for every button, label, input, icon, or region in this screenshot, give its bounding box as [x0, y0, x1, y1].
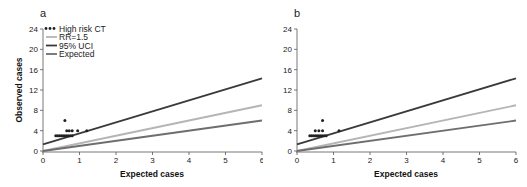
data-point	[337, 129, 340, 132]
data-point	[65, 129, 68, 132]
y-tick-label: 24	[283, 25, 292, 34]
data-point	[85, 129, 88, 132]
series-line	[43, 121, 262, 152]
y-tick-label: 20	[283, 45, 292, 54]
chart-a: a Observed cases Expected cases High ris…	[0, 0, 263, 187]
legend: High risk CT RR=1.5 95% UCI Expected	[45, 24, 106, 60]
y-tick-label: 12	[283, 86, 292, 95]
y-tick-label: 24	[29, 25, 38, 34]
legend-item-expected: Expected	[46, 49, 95, 59]
y-tick-label: 8	[34, 106, 39, 115]
x-tick-label: 5	[477, 156, 482, 165]
x-tick-label: 3	[150, 156, 155, 165]
x-tick-label: 0	[295, 156, 300, 165]
x-tick-label: 1	[77, 156, 82, 165]
series-line	[297, 121, 516, 152]
panel-letter-b: b	[294, 7, 300, 19]
y-tick-label: 20	[29, 45, 38, 54]
y-tick-label: 16	[29, 66, 38, 75]
y-axis-label: Observed cases	[14, 57, 24, 122]
x-tick-label: 5	[223, 156, 228, 165]
x-tick-label: 2	[368, 156, 373, 165]
y-tick-label: 4	[288, 127, 293, 136]
data-point	[76, 129, 79, 132]
legend-label: Expected	[59, 49, 95, 59]
x-tick-label: 1	[331, 156, 336, 165]
data-point	[71, 134, 74, 137]
data-point	[63, 119, 66, 122]
x-tick-label: 4	[441, 156, 446, 165]
panel-a: a Observed cases Expected cases High ris…	[0, 0, 263, 187]
x-tick-label: 2	[114, 156, 119, 165]
data-point	[325, 134, 328, 137]
data-point	[68, 129, 71, 132]
y-tick-label: 0	[288, 147, 293, 156]
data-point	[321, 119, 324, 122]
x-tick-label: 4	[187, 156, 192, 165]
data-point	[317, 129, 320, 132]
legend-dot-icon	[45, 27, 48, 30]
data-point	[71, 129, 74, 132]
y-tick-label: 8	[288, 106, 293, 115]
x-axis-label: Expected cases	[120, 169, 184, 179]
data-point	[321, 129, 324, 132]
legend-dot-icon	[53, 27, 56, 30]
x-tick-label: 3	[404, 156, 409, 165]
y-tick-label: 12	[29, 86, 38, 95]
x-tick-label: 0	[41, 156, 46, 165]
x-axis-label: Expected cases	[374, 169, 438, 179]
y-tick-label: 0	[34, 147, 39, 156]
panel-letter-a: a	[40, 7, 47, 19]
x-tick-label: 6	[514, 156, 519, 165]
legend-dot-icon	[49, 27, 52, 30]
chart-b: b Expected cases 048121620240123456	[254, 0, 527, 187]
panel-b: b Expected cases 048121620240123456	[254, 0, 517, 187]
y-tick-label: 16	[283, 66, 292, 75]
y-tick-label: 4	[34, 127, 39, 136]
plot-area: 048121620240123456	[283, 25, 519, 165]
data-point	[314, 129, 317, 132]
